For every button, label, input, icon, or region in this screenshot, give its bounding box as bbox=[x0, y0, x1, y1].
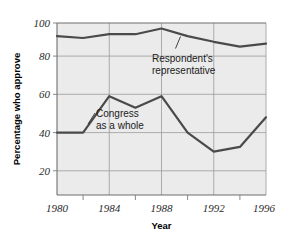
x-tick-label-1980: 1980 bbox=[46, 202, 69, 214]
chart-figure: 100 80 60 40 20 1980 1984 1988 1992 1996… bbox=[0, 0, 301, 251]
annotation-label-respondent-line2: representative bbox=[152, 65, 216, 76]
y-tick-label-40: 40 bbox=[39, 127, 51, 139]
x-tick-label-1984: 1984 bbox=[98, 202, 121, 214]
annotation-label-congress-line1: Congress bbox=[96, 108, 139, 119]
y-tick-label-20: 20 bbox=[39, 165, 51, 177]
y-tick-label-80: 80 bbox=[39, 50, 51, 62]
y-tick-label-60: 60 bbox=[39, 88, 51, 100]
line-chart: 100 80 60 40 20 1980 1984 1988 1992 1996… bbox=[0, 0, 301, 251]
x-tick-label-1992: 1992 bbox=[203, 202, 226, 214]
y-axis-title: Percentage who approve bbox=[11, 53, 22, 165]
y-tick-label-100: 100 bbox=[34, 17, 51, 29]
annotation-congress-as-a-whole: Congress as a whole bbox=[88, 108, 144, 131]
x-axis-title: Year bbox=[151, 220, 171, 231]
annotation-label-respondent-line1: Respondent's bbox=[152, 53, 213, 64]
x-tick-label-1996: 1996 bbox=[253, 202, 276, 214]
x-tick-label-1988: 1988 bbox=[151, 202, 174, 214]
annotation-label-congress-line2: as a whole bbox=[96, 120, 144, 131]
